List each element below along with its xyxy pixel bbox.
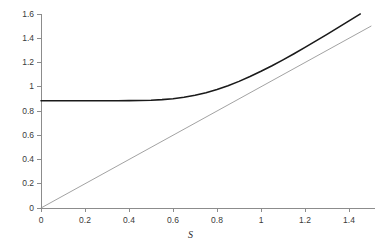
y-axis-tick-label: 0.2 (22, 179, 34, 188)
y-axis-tick-label: 1.2 (22, 58, 34, 67)
x-axis-ticks (41, 208, 349, 212)
data-series-group (41, 14, 371, 208)
x-axis-tick-label: 0.2 (65, 216, 105, 225)
x-axis-tick-label: 0.8 (197, 216, 237, 225)
y-axis-tick-label: 1 (29, 82, 34, 91)
x-axis-tick-label: 0 (21, 216, 61, 225)
x-axis-tick-label: 1.2 (285, 216, 325, 225)
y-axis-tick-label: 1.4 (22, 34, 34, 43)
option-value-curve (41, 14, 360, 101)
y-axis-ticks (37, 14, 41, 208)
y-axis-tick-label: 0.4 (22, 155, 34, 164)
x-axis-tick-label: 0.6 (153, 216, 193, 225)
plot-area (0, 0, 386, 248)
intrinsic-value-line (41, 26, 371, 208)
chart-container: 00.20.40.60.811.21.41.6 00.20.40.60.811.… (0, 0, 386, 248)
y-axis-tick-label: 0.6 (22, 131, 34, 140)
x-axis-tick-label: 1.4 (329, 216, 369, 225)
y-axis-tick-label: 1.6 (22, 10, 34, 19)
y-axis-tick-label: 0.8 (22, 107, 34, 116)
y-axis-tick-label: 0 (29, 204, 34, 213)
x-axis-title: S (181, 230, 201, 240)
x-axis-tick-label: 0.4 (109, 216, 149, 225)
x-axis-tick-label: 1 (241, 216, 281, 225)
